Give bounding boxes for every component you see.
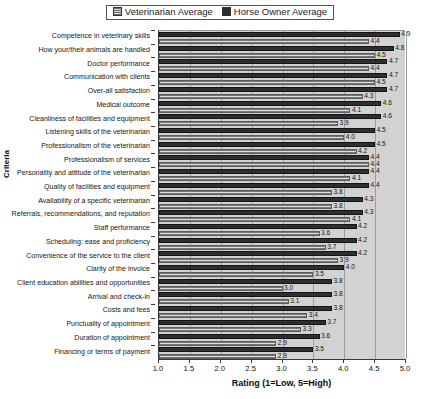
bar-owner xyxy=(159,87,387,92)
bar-owner xyxy=(159,279,332,284)
bar-owner xyxy=(159,101,381,106)
plot-area: 4.94.44.84.54.74.44.74.54.74.34.64.14.63… xyxy=(158,30,405,359)
bar-value-label-owner: 4.5 xyxy=(377,127,386,134)
bar-row: 4.23.7 xyxy=(159,237,405,251)
y-axis-category-label: Medical outcome xyxy=(96,102,150,109)
y-axis-tick xyxy=(151,99,155,100)
bar-owner xyxy=(159,334,320,339)
bar-owner xyxy=(159,210,363,215)
y-axis-tick xyxy=(151,140,155,141)
y-axis-tick xyxy=(151,30,155,31)
bar-value-label-vet: 4.1 xyxy=(352,107,361,114)
y-axis-tick xyxy=(151,332,155,333)
bar-value-label-owner: 4.2 xyxy=(358,223,367,230)
x-axis-tick-label: 2.5 xyxy=(245,365,256,373)
bar-owner xyxy=(159,128,375,133)
bar-row: 4.63.9 xyxy=(159,113,405,127)
y-axis-tick xyxy=(151,304,155,305)
bar-vet xyxy=(159,204,332,209)
bar-owner xyxy=(159,292,332,297)
bar-chart: Veterinarian Average Horse Owner Average… xyxy=(0,0,440,399)
bar-row: 4.23.9 xyxy=(159,250,405,264)
bar-value-label-owner: 4.2 xyxy=(358,237,367,244)
bar-value-label-vet: 3.4 xyxy=(309,312,318,319)
bar-row: 4.74.5 xyxy=(159,72,405,86)
bar-value-label-vet: 4.4 xyxy=(370,65,379,72)
x-axis-tick-label: 1.0 xyxy=(153,365,164,373)
bar-row: 3.52.9 xyxy=(159,346,405,360)
bar-value-label-vet: 4.0 xyxy=(346,134,355,141)
bar-vet xyxy=(159,121,338,126)
bar-vet xyxy=(159,245,326,250)
chart-legend: Veterinarian Average Horse Owner Average xyxy=(0,5,440,20)
x-axis-tick-mark xyxy=(312,359,313,363)
bar-vet xyxy=(159,190,332,195)
bar-row: 4.03.5 xyxy=(159,264,405,278)
y-axis-category-label: Costs and fees xyxy=(103,307,150,314)
y-axis-tick xyxy=(151,57,155,58)
bar-row: 4.44.1 xyxy=(159,168,405,182)
bar-value-label-vet: 3.5 xyxy=(315,271,324,278)
y-axis-tick xyxy=(151,153,155,154)
bar-value-label-owner: 4.9 xyxy=(401,31,410,38)
bar-row: 4.94.4 xyxy=(159,31,405,45)
x-axis-tick-label: 1.5 xyxy=(184,365,195,373)
x-axis-tick-mark xyxy=(220,359,221,363)
x-axis-tick-label: 5.0 xyxy=(400,365,411,373)
bar-vet xyxy=(159,162,369,167)
bar-owner xyxy=(159,142,375,147)
y-axis-category-label: Availability of a specific veterinarian xyxy=(38,198,150,205)
y-axis-tick xyxy=(151,208,155,209)
bar-value-label-owner: 3.8 xyxy=(333,291,342,298)
y-axis-category-label: Cleanliness of facilities and equipment xyxy=(29,116,150,123)
bar-owner xyxy=(159,155,369,160)
legend-label-veterinarian: Veterinarian Average xyxy=(125,7,213,17)
y-axis-tick xyxy=(151,126,155,127)
bar-value-label-vet: 4.3 xyxy=(364,93,373,100)
bar-vet xyxy=(159,53,375,58)
bar-vet xyxy=(159,176,350,181)
y-axis-category-label: How your/their animals are handled xyxy=(38,47,150,54)
bar-owner xyxy=(159,238,357,243)
bar-vet xyxy=(159,313,307,318)
legend-label-horse-owner: Horse Owner Average xyxy=(234,7,327,17)
bar-value-label-vet: 3.7 xyxy=(327,244,336,251)
bar-value-label-owner: 4.4 xyxy=(370,168,379,175)
x-axis-tick-mark xyxy=(282,359,283,363)
legend-entry-horse-owner: Horse Owner Average xyxy=(222,7,327,17)
bar-row: 3.73.3 xyxy=(159,319,405,333)
x-axis-tick-mark xyxy=(343,359,344,363)
bar-vet xyxy=(159,108,350,113)
bar-vet xyxy=(159,272,313,277)
y-axis-category-label: Professionalism of the veterinarian xyxy=(41,143,150,150)
bar-value-label-owner: 4.4 xyxy=(370,182,379,189)
bar-value-label-vet: 3.3 xyxy=(303,326,312,333)
bar-row: 4.33.8 xyxy=(159,196,405,210)
y-axis-category-label: Staff performance xyxy=(94,225,150,232)
gridline xyxy=(406,31,407,359)
y-axis-category-label: Financing or terms of payment xyxy=(54,349,150,356)
x-axis-tick-mark xyxy=(405,359,406,363)
x-axis-tick-mark xyxy=(158,359,159,363)
y-axis-category-label: Listening skills of the veterinarian xyxy=(46,129,151,136)
y-axis-tick xyxy=(151,290,155,291)
bar-row: 4.64.1 xyxy=(159,100,405,114)
bar-owner xyxy=(159,347,313,352)
bar-owner xyxy=(159,59,387,64)
bar-value-label-owner: 4.7 xyxy=(389,86,398,93)
y-axis-category-label: Personality and attitude of the veterina… xyxy=(17,170,150,177)
bar-value-label-vet: 4.4 xyxy=(370,38,379,45)
x-axis-tick-label: 4.5 xyxy=(369,365,380,373)
y-axis-tick xyxy=(151,222,155,223)
bar-vet xyxy=(159,217,350,222)
y-axis-category-labels: Competence in veterinary skillsHow your/… xyxy=(0,30,155,359)
bar-value-label-owner: 4.6 xyxy=(383,100,392,107)
bar-value-label-vet: 3.1 xyxy=(290,298,299,305)
y-axis-category-label: Doctor performance xyxy=(87,61,150,68)
bar-vet xyxy=(159,299,289,304)
y-axis-tick xyxy=(151,44,155,45)
y-axis-category-label: Quality of facilities and equipment xyxy=(44,184,150,191)
y-axis-tick xyxy=(151,85,155,86)
y-axis-category-label: Professionalism of services xyxy=(64,157,150,164)
y-axis-tick xyxy=(151,71,155,72)
